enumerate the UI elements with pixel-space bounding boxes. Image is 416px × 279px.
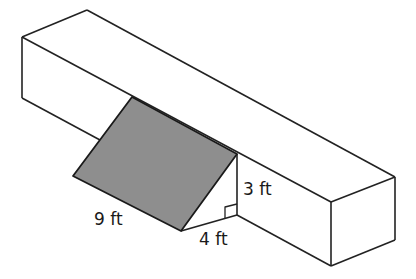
base-length-label: 4 ft [199,231,228,248]
slant-length-label: 9 ft [94,211,123,228]
diagram-canvas: 9 ft 4 ft 3 ft [0,0,416,279]
height-label: 3 ft [243,181,272,198]
